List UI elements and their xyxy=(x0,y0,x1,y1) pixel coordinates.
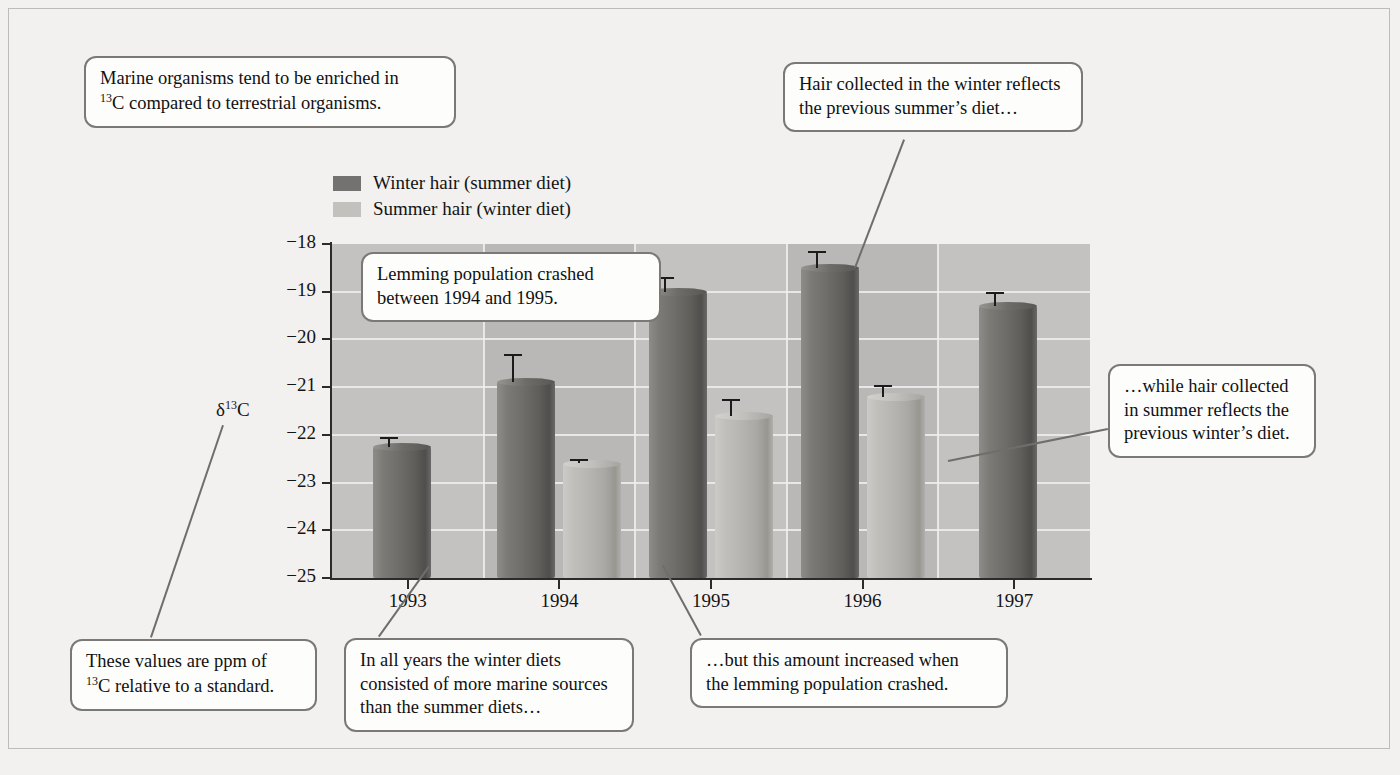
gridline-horizontal xyxy=(332,338,1090,340)
gridline-vertical xyxy=(786,244,788,578)
callout-marine-enrichment: Marine organisms tend to be enriched in1… xyxy=(84,56,456,128)
page-edge-right xyxy=(1389,8,1390,749)
y-axis-tick xyxy=(322,434,331,436)
callout-ppm-standard: These values are ppm of13C relative to a… xyxy=(70,639,317,711)
bar-body xyxy=(563,464,621,579)
legend-label-summer: Summer hair (winter diet) xyxy=(373,198,571,220)
bar-body xyxy=(979,306,1037,578)
error-bar-whisker xyxy=(874,385,892,387)
bar-summer-hair xyxy=(715,416,773,578)
gridline-horizontal xyxy=(332,529,1090,531)
y-axis-tick xyxy=(322,577,331,579)
figure-root: Winter hair (summer diet) Summer hair (w… xyxy=(0,0,1400,775)
page-edge-top xyxy=(8,8,1390,9)
y-axis-tick xyxy=(322,243,331,245)
y-axis-tick-label: −20 xyxy=(256,326,316,348)
bar-body xyxy=(715,416,773,578)
callout-winter-hair-summer-diet: Hair collected in the winter reflectsthe… xyxy=(783,62,1083,132)
bar-cap xyxy=(373,443,431,451)
bar-body xyxy=(801,268,859,578)
x-axis-tick-label: 1996 xyxy=(803,590,923,612)
callout-lemming-crash: Lemming population crashedbetween 1994 a… xyxy=(361,252,661,322)
y-axis-tick xyxy=(322,529,331,531)
bar-cap xyxy=(979,302,1037,310)
error-bar xyxy=(388,437,390,447)
y-axis-tick xyxy=(322,386,331,388)
y-axis-tick xyxy=(322,482,331,484)
bar-winter-hair xyxy=(649,292,707,578)
leader-line xyxy=(150,425,224,638)
page-bottom-artifact xyxy=(640,755,1380,773)
chart-legend: Winter hair (summer diet) Summer hair (w… xyxy=(333,172,571,224)
bar-winter-hair xyxy=(497,382,555,578)
error-bar-whisker xyxy=(380,437,398,439)
bar-body xyxy=(649,292,707,578)
y-axis-title: δ13C xyxy=(216,398,250,421)
y-axis-tick-label: −18 xyxy=(256,231,316,253)
callout-winter-more-marine: In all years the winter dietsconsisted o… xyxy=(344,638,634,732)
x-axis-tick xyxy=(710,580,712,589)
legend-label-winter: Winter hair (summer diet) xyxy=(373,172,571,194)
error-bar-whisker xyxy=(986,292,1004,294)
gridline-vertical xyxy=(937,244,939,578)
error-bar xyxy=(994,292,996,306)
error-bar-whisker xyxy=(570,459,588,461)
bar-cap xyxy=(715,412,773,420)
y-axis-tick-label: −22 xyxy=(256,422,316,444)
y-axis-tick-label: −21 xyxy=(256,374,316,396)
error-bar-whisker xyxy=(504,354,522,356)
error-bar xyxy=(664,277,666,291)
legend-swatch-icon-winter xyxy=(333,176,361,191)
y-axis-tick-label: −24 xyxy=(256,517,316,539)
error-bar xyxy=(730,399,732,416)
y-axis-tick-label: −23 xyxy=(256,470,316,492)
bar-winter-hair xyxy=(979,306,1037,578)
bar-cap xyxy=(867,393,925,401)
error-bar xyxy=(816,251,818,268)
bar-summer-hair xyxy=(867,397,925,578)
bar-winter-hair xyxy=(801,268,859,578)
page-edge-bottom xyxy=(8,748,1390,749)
legend-swatch-icon-summer xyxy=(333,202,361,217)
gridline-horizontal xyxy=(332,482,1090,484)
x-axis-tick-label: 1994 xyxy=(499,590,619,612)
x-axis-tick xyxy=(407,580,409,589)
bar-body xyxy=(373,447,431,578)
bar-winter-hair xyxy=(373,447,431,578)
y-axis-tick xyxy=(322,291,331,293)
callout-amount-increased: …but this amount increased whenthe lemmi… xyxy=(690,638,1008,708)
error-bar xyxy=(882,385,884,397)
callout-summer-hair-winter-diet: …while hair collectedin summer reflects … xyxy=(1108,364,1316,458)
gridline-horizontal xyxy=(332,386,1090,388)
bar-body xyxy=(867,397,925,578)
x-axis-tick xyxy=(862,580,864,589)
y-axis-tick xyxy=(322,338,331,340)
bar-cap xyxy=(801,264,859,272)
legend-item-winter-hair: Winter hair (summer diet) xyxy=(333,172,571,194)
gridline-horizontal xyxy=(332,434,1090,436)
error-bar xyxy=(578,459,580,464)
bar-body xyxy=(497,382,555,578)
error-bar xyxy=(512,354,514,383)
error-bar-whisker xyxy=(722,399,740,401)
error-bar-whisker xyxy=(808,251,826,253)
x-axis-tick xyxy=(1013,580,1015,589)
x-axis-tick xyxy=(558,580,560,589)
x-axis-tick-label: 1997 xyxy=(954,590,1074,612)
y-axis-tick-label: −25 xyxy=(256,565,316,587)
legend-item-summer-hair: Summer hair (winter diet) xyxy=(333,198,571,220)
y-axis-tick-label: −19 xyxy=(256,279,316,301)
bar-summer-hair xyxy=(563,464,621,579)
page-edge-left xyxy=(8,8,9,749)
x-axis-tick-label: 1995 xyxy=(651,590,771,612)
